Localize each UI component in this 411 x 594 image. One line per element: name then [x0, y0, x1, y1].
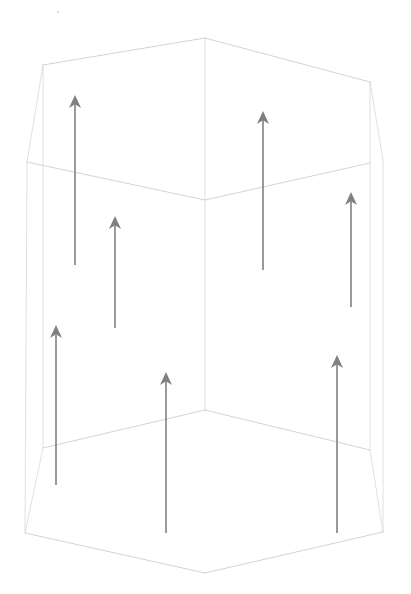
figure-background — [0, 0, 411, 594]
stray-speck — [57, 11, 59, 13]
figure-canvas — [0, 0, 411, 594]
hexagonal-prism-diagram — [0, 0, 411, 594]
stray-marks-group — [57, 11, 59, 13]
